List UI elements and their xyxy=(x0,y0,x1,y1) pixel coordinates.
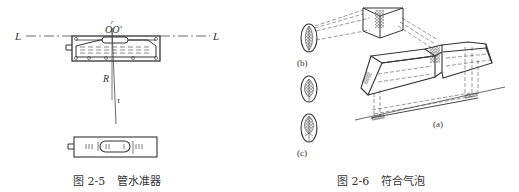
label-a: (a) xyxy=(433,119,443,129)
label-radius: R xyxy=(102,73,109,84)
figure-coincidence-bubble: (b) (c) xyxy=(260,0,519,192)
label-c: (c) xyxy=(297,148,307,158)
coincidence-bubble-diagram: (b) (c) xyxy=(260,0,519,192)
axis-label-left: L xyxy=(14,30,21,42)
figure-number: 图 2-5 xyxy=(73,175,105,188)
axis-label-right: L xyxy=(212,30,219,42)
label-center: OO' xyxy=(105,24,122,35)
label-b: (b) xyxy=(297,58,308,68)
figure-title: 符合气泡 xyxy=(381,175,425,188)
vial-body xyxy=(361,42,492,95)
tube-level-diagram: L L r OO' R τ xyxy=(0,0,260,192)
figure-title: 管水准器 xyxy=(117,175,161,188)
figure-caption: 图 2-5管水准器 xyxy=(73,172,161,188)
figure-tube-level: L L r OO' R τ xyxy=(0,0,260,192)
figure-number: 图 2-6 xyxy=(337,175,369,188)
figure-caption: 图 2-6符合气泡 xyxy=(337,172,425,188)
label-tau: τ xyxy=(117,96,121,105)
